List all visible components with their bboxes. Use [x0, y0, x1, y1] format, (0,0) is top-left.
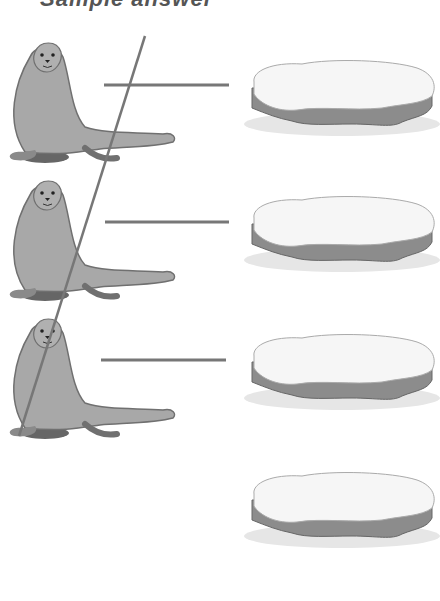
seal-1: [10, 43, 175, 163]
ice-floe-1: [244, 61, 440, 136]
worksheet-canvas: [0, 0, 440, 601]
ice-floe-4: [244, 473, 440, 548]
ice-floe-3: [244, 335, 440, 410]
ice-floe-2: [244, 197, 440, 272]
seal-2: [10, 181, 175, 301]
seal-3: [10, 319, 175, 439]
